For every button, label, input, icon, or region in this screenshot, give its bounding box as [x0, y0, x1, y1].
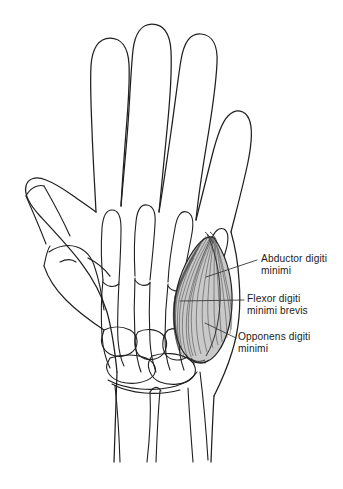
label-opponens-line1: Opponens digiti: [238, 331, 310, 342]
label-abductor-line2: minimi: [261, 265, 291, 276]
label-flexor-line2: minimi brevis: [247, 305, 308, 316]
label-flexor-line1: Flexor digiti: [247, 293, 300, 304]
label-flexor-digiti-minimi-brevis: Flexor digitiminimi brevis: [247, 293, 308, 318]
label-opponens-digiti-minimi: Opponens digitiminimi: [238, 331, 310, 356]
label-abductor-line1: Abductor digiti: [261, 253, 327, 264]
label-abductor-digiti-minimi: Abductor digitiminimi: [261, 253, 327, 278]
anatomical-figure: Abductor digitiminimi Flexor digitiminim…: [0, 0, 343, 489]
hand-anatomy-illustration: [0, 0, 343, 489]
label-opponens-line2: minimi: [238, 343, 268, 354]
radius-ulna-bones: [115, 372, 208, 462]
